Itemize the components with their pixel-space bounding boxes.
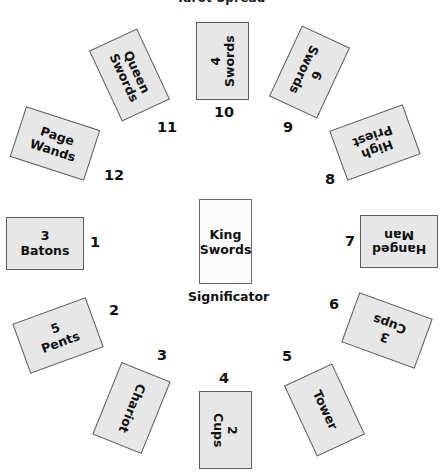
- card-position-5[interactable]: Tower: [284, 363, 365, 456]
- card-position-11[interactable]: Queen Swords: [89, 28, 170, 121]
- card-label-9: 6 Swords: [286, 43, 334, 102]
- card-number-3: 3: [157, 348, 167, 363]
- card-number-8: 8: [325, 172, 335, 187]
- card-number-12: 12: [104, 168, 124, 183]
- card-number-5: 5: [282, 349, 292, 364]
- card-number-1: 1: [90, 235, 100, 250]
- card-position-9[interactable]: 6 Swords: [269, 25, 350, 118]
- card-label-3: Chariot: [115, 381, 148, 434]
- card-position-10[interactable]: 4 Swords: [196, 22, 249, 100]
- card-label-11: Queen Swords: [106, 46, 154, 105]
- card-position-7[interactable]: Hanged Man: [360, 215, 438, 268]
- card-label-7: Hanged Man: [372, 227, 426, 256]
- card-position-2[interactable]: 5 Pents: [12, 297, 103, 373]
- card-number-9: 9: [283, 120, 293, 135]
- card-label-6: 3 Cups: [366, 311, 408, 350]
- card-number-11: 11: [157, 120, 177, 135]
- card-number-2: 2: [109, 303, 119, 318]
- card-label-4: 2 Cups: [211, 413, 240, 447]
- significator-caption: Significator: [188, 291, 269, 304]
- card-position-6[interactable]: 3 Cups: [341, 292, 432, 368]
- card-label-10: 4 Swords: [208, 35, 237, 87]
- tarot-spread-diagram: Tarot Spread 4 Swords 10 6 Swords 9 High…: [0, 0, 442, 473]
- card-position-1[interactable]: 3 Batons: [6, 217, 84, 270]
- card-label-12: Page Wands: [28, 123, 82, 165]
- diagram-title: Tarot Spread: [0, 0, 442, 5]
- card-label-1: 3 Batons: [21, 229, 70, 258]
- card-number-4: 4: [219, 371, 229, 386]
- card-position-4[interactable]: 2 Cups: [199, 391, 252, 469]
- card-label-5: Tower: [309, 388, 340, 432]
- card-number-10: 10: [214, 105, 234, 120]
- card-number-6: 6: [329, 297, 339, 312]
- card-label-2: 5 Pents: [34, 315, 81, 355]
- card-position-3[interactable]: Chariot: [92, 362, 170, 454]
- card-position-8[interactable]: High Priest: [329, 104, 420, 180]
- card-number-7: 7: [345, 234, 355, 249]
- significator-card-label: King Swords: [200, 227, 252, 257]
- card-label-8: High Priest: [351, 122, 400, 163]
- card-position-12[interactable]: Page Wands: [10, 106, 101, 181]
- significator-card[interactable]: King Swords: [199, 199, 252, 284]
